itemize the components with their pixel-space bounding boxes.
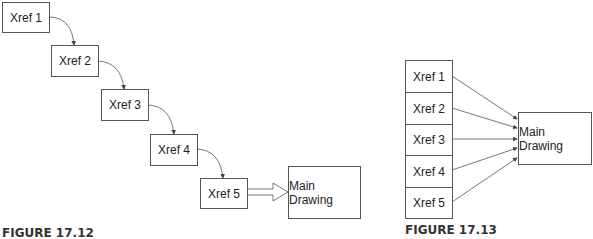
right-xref-3-box: Xref 3: [405, 124, 453, 156]
right-xref-1-label: Xref 1: [413, 70, 445, 84]
figure-17-12-caption: FIGURE 17.12: [2, 226, 94, 239]
right-xref-4-label: Xref 4: [413, 165, 445, 179]
right-xref-1-box: Xref 1: [405, 60, 453, 93]
nested-arrow-3: [148, 105, 174, 134]
left-xref-4-box: Xref 4: [150, 134, 198, 166]
right-xref-2-label: Xref 2: [413, 102, 445, 116]
nested-arrow-1: [50, 17, 74, 45]
left-main-drawing-label: Main Drawing: [289, 179, 360, 207]
left-xref-3-box: Xref 3: [101, 89, 149, 121]
nested-arrow-4: [197, 149, 223, 178]
fan-arrow-2: [452, 108, 517, 128]
right-main-drawing-label: Main Drawing: [519, 125, 591, 153]
fan-arrow-1: [452, 76, 517, 119]
right-xref-5-label: Xref 5: [413, 196, 445, 210]
figure-17-13-caption: FIGURE 17.13: [405, 223, 497, 237]
left-xref-1-label: Xref 1: [10, 11, 42, 25]
left-xref-3-label: Xref 3: [109, 98, 141, 112]
fan-arrow-4: [452, 148, 517, 170]
hollow-arrow: [247, 183, 288, 201]
left-xref-4-label: Xref 4: [158, 143, 190, 157]
right-main-drawing-box: Main Drawing: [518, 112, 592, 165]
fan-arrow-5: [452, 158, 517, 202]
left-xref-5-label: Xref 5: [208, 187, 240, 201]
right-xref-2-box: Xref 2: [405, 92, 453, 125]
left-xref-5-box: Xref 5: [200, 178, 248, 209]
right-xref-3-label: Xref 3: [413, 133, 445, 147]
left-xref-1-box: Xref 1: [2, 2, 50, 33]
nested-arrow-2: [98, 61, 124, 89]
right-xref-4-box: Xref 4: [405, 155, 453, 188]
left-xref-2-label: Xref 2: [59, 54, 91, 68]
left-xref-2-box: Xref 2: [51, 45, 99, 77]
right-xref-5-box: Xref 5: [405, 187, 453, 219]
left-main-drawing-box: Main Drawing: [288, 166, 361, 219]
